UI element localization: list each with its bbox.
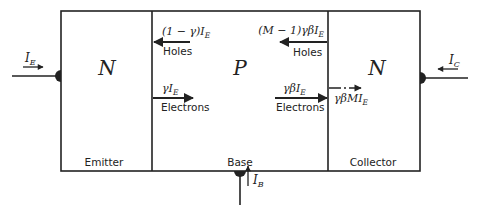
base-region-letter: P [232, 56, 247, 80]
bjt-diagram: N P N Emitter Base Collector IE IC IB (1… [0, 0, 480, 213]
bc-electrons-formula: γβIE [283, 82, 306, 97]
collector-label: Collector [350, 156, 397, 168]
emitter-region-letter: N [97, 56, 117, 80]
base-contact-dot [234, 171, 246, 177]
collector-current-label: IC [448, 53, 460, 69]
collector-region-letter: N [367, 56, 387, 80]
bc-electrons-label: Electrons [276, 101, 325, 113]
emitter-label: Emitter [85, 156, 124, 168]
emitter-current-label: IE [24, 51, 36, 67]
eb-holes-formula: (1 − γ)IE [162, 25, 211, 40]
bc-holes-formula: (M − 1)γβIE [258, 24, 324, 39]
eb-holes-label: Holes [163, 45, 192, 57]
base-current-label: IB [252, 173, 264, 189]
eb-electrons-label: Electrons [161, 101, 210, 113]
base-label: Base [227, 156, 253, 168]
transistor-body [61, 11, 420, 171]
collector-contact-dot [420, 72, 426, 84]
eb-electrons-formula: γIE [162, 82, 179, 97]
emitter-contact-dot [55, 70, 61, 82]
bc-holes-label: Holes [293, 46, 322, 58]
collector-multiplied-formula: γβMIE [334, 92, 369, 107]
